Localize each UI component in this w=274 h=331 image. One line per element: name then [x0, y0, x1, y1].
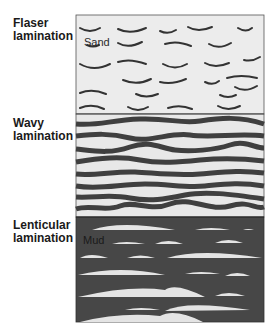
- sand-label: Sand: [84, 36, 110, 48]
- flaser-panel: Sand: [76, 15, 264, 114]
- lamination-diagram: Sand: [0, 0, 274, 331]
- lenticular-panel: Mud: [76, 217, 264, 322]
- wavy-panel: [76, 114, 264, 217]
- mud-label: Mud: [83, 234, 104, 246]
